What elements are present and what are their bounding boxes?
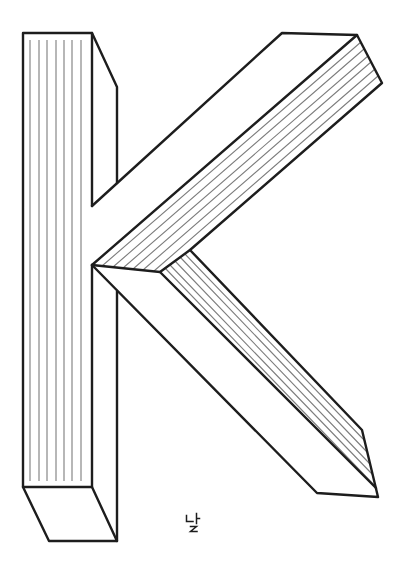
stem-front-face-outline [23,33,92,487]
upper-arm-ridge-edge [92,35,357,265]
lower-arm-ridge-edge [160,272,376,488]
mark-two-glyph [191,527,198,532]
drawing-canvas [0,0,412,575]
footer-signature-mark [187,514,200,532]
mark-a-vowel-glyph [197,514,200,524]
upper-arm-outline [92,33,382,272]
lower-arm-outline [92,250,378,497]
letter-k-3d-drawing [0,0,412,575]
stem-hatch-lines [30,40,81,481]
stem-side-top-edge [92,33,117,183]
mark-nieun-glyph [187,516,194,522]
stem-bottom-face-outline [23,487,117,541]
upper-arm-hatch-lines [102,42,378,271]
